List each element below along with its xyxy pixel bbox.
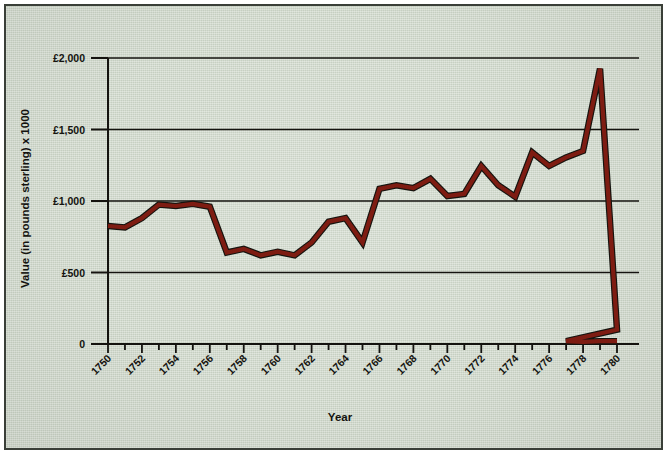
x-tick-label: 1776 [530, 352, 555, 377]
y-tick-label: £1,000 [53, 195, 85, 207]
gridlines-group [91, 58, 639, 344]
x-tick-label: 1750 [88, 352, 113, 377]
x-tick-label: 1772 [462, 352, 487, 377]
x-tick-label: 1768 [394, 352, 419, 377]
x-tick-label: 1778 [563, 352, 588, 377]
x-tick-label: 1770 [428, 352, 453, 377]
y-tick-label: £2,000 [53, 52, 85, 64]
y-tick-label: £1,500 [53, 124, 85, 136]
x-tick-label: 1760 [258, 352, 283, 377]
y-axis-tick-labels-group: 0£500£1,000£1,500£2,000 [53, 52, 85, 350]
data-line [108, 69, 617, 342]
y-tick-label: £500 [62, 267, 86, 279]
x-tick-label: 1780 [597, 352, 622, 377]
x-axis-tick-labels-group: 1750175217541756175817601762176417661768… [88, 352, 622, 377]
x-tick-label: 1764 [326, 352, 351, 377]
x-tick-label: 1754 [156, 352, 181, 377]
x-axis-title: Year [328, 411, 353, 423]
x-tick-label: 1774 [496, 352, 521, 377]
x-tick-label: 1758 [224, 352, 249, 377]
x-axis-ticks-group [108, 344, 617, 353]
x-tick-label: 1756 [190, 352, 215, 377]
x-tick-label: 1766 [360, 352, 385, 377]
chart-figure: 0£500£1,000£1,500£2,000 1750175217541756… [0, 0, 670, 457]
line-chart-plot: 0£500£1,000£1,500£2,000 1750175217541756… [0, 0, 670, 457]
x-tick-label: 1762 [292, 352, 317, 377]
y-axis-title: Value (in pounds sterling) x 1000 [19, 109, 31, 288]
x-tick-label: 1752 [122, 352, 147, 377]
y-tick-label: 0 [79, 338, 85, 350]
